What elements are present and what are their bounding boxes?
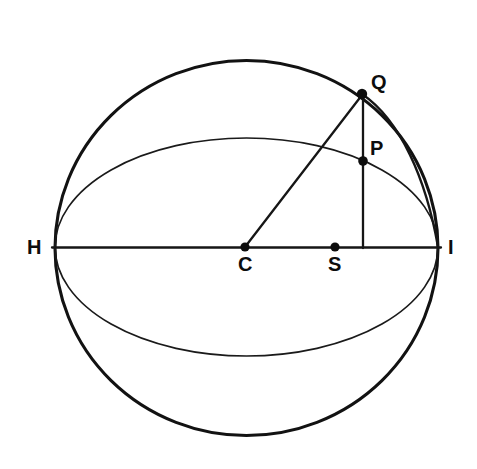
point-label-i: I xyxy=(448,237,454,257)
point-label-h: H xyxy=(27,237,41,257)
point-dot-q xyxy=(357,89,367,99)
diagram-canvas: H I C S P Q xyxy=(0,0,477,469)
point-label-q: Q xyxy=(371,72,387,92)
sphere-diagram-svg xyxy=(0,0,477,469)
point-dot-c xyxy=(240,242,249,251)
meridian-arc-q-to-i xyxy=(362,94,438,247)
point-dot-s xyxy=(330,242,339,251)
point-label-c: C xyxy=(238,254,252,274)
radius-line-c-q xyxy=(245,95,362,247)
point-dot-p xyxy=(358,156,368,166)
point-label-p: P xyxy=(370,138,383,158)
point-label-s: S xyxy=(328,254,341,274)
